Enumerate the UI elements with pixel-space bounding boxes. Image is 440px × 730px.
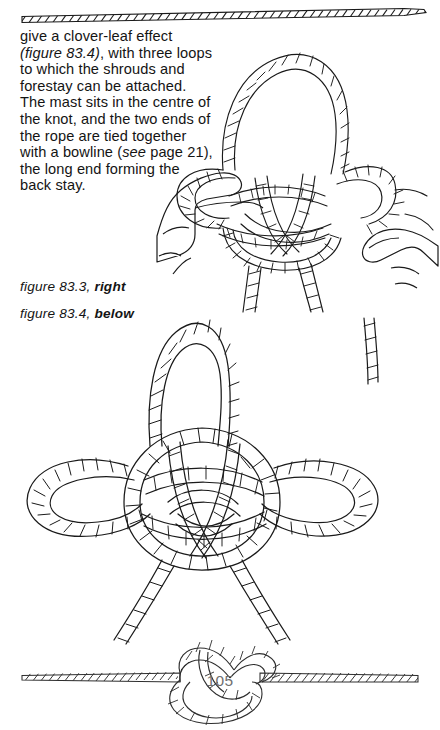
- footer-rope-knot: [0, 642, 440, 730]
- rope-tail-icon: [364, 318, 378, 384]
- caption-833-emphasis: right: [94, 279, 125, 294]
- rope-body-icon: [20, 9, 427, 25]
- book-page: give a clover-leaf effect (figure 83.4),…: [0, 0, 440, 730]
- caption-833-text: figure 83.3,: [20, 279, 94, 294]
- figure-83-4-illustration: [8, 318, 432, 648]
- clover-leaf-knot-icon: [27, 320, 378, 644]
- top-rope-divider: [0, 0, 440, 30]
- figure-83-3-illustration: [155, 38, 440, 313]
- figure-ref-834: (figure 83.4): [20, 45, 100, 61]
- body-line-8-pre: with a bowline (: [20, 144, 122, 160]
- see-reference: see: [122, 144, 146, 160]
- figure-caption-83-3: figure 83.3, right: [20, 279, 126, 294]
